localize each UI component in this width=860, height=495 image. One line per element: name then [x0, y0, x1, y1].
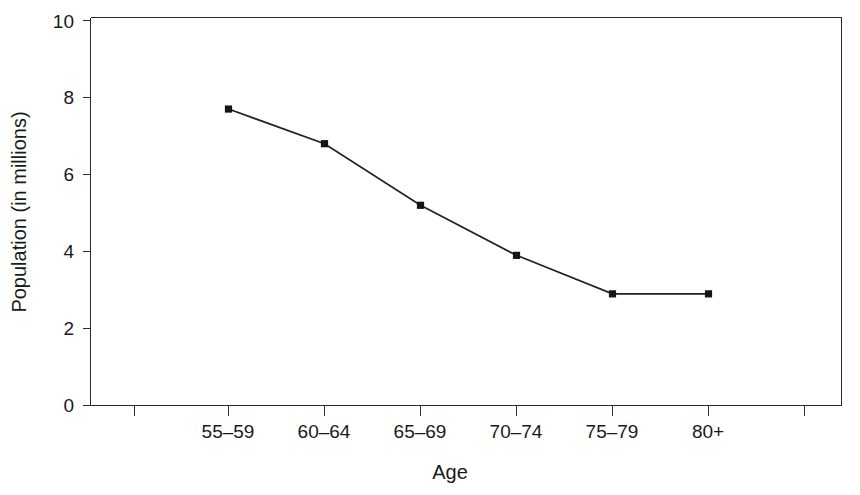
data-point-marker: [609, 290, 616, 297]
y-axis-label-8: 8: [63, 87, 74, 108]
line-chart: 0 2 4 6 8 10 55–59 60–64 65–69 70–74 75–…: [0, 0, 860, 495]
y-axis-title: Population (in millions): [8, 111, 30, 312]
x-axis-title: Age: [432, 461, 468, 483]
x-axis-label-80-plus: 80+: [692, 421, 724, 442]
y-axis-label-0: 0: [63, 395, 74, 416]
y-axis-label-2: 2: [63, 318, 74, 339]
data-point-marker: [417, 202, 424, 209]
x-axis-label-55-59: 55–59: [202, 421, 255, 442]
x-axis-label-65-69: 65–69: [394, 421, 447, 442]
data-point-marker: [705, 290, 712, 297]
data-point-marker: [513, 252, 520, 259]
x-axis-label-60-64: 60–64: [298, 421, 351, 442]
x-axis-label-70-74: 70–74: [490, 421, 543, 442]
chart-canvas: 0 2 4 6 8 10 55–59 60–64 65–69 70–74 75–…: [0, 0, 860, 495]
y-axis-label-6: 6: [63, 164, 74, 185]
y-axis-label-4: 4: [63, 241, 74, 262]
y-axis-label-10: 10: [53, 11, 74, 32]
x-axis-label-75-79: 75–79: [586, 421, 639, 442]
data-point-marker: [225, 105, 232, 112]
data-point-marker: [321, 140, 328, 147]
